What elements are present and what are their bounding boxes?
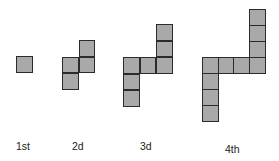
square-tile xyxy=(202,73,219,90)
figure-4th: 4th xyxy=(0,0,279,161)
square-tile xyxy=(202,105,219,122)
figure-label: 4th xyxy=(225,144,240,155)
square-tile xyxy=(202,57,219,74)
square-tile xyxy=(249,41,266,58)
square-tile xyxy=(233,57,250,74)
square-tile xyxy=(249,9,266,26)
square-tile xyxy=(249,25,266,42)
square-tile xyxy=(218,57,235,74)
square-tile xyxy=(249,57,266,74)
square-tile xyxy=(202,89,219,106)
